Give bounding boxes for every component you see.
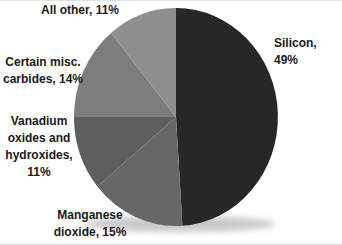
label-certain-misc-carbides: Certain misc. carbides, 14% bbox=[0, 54, 86, 88]
label-silicon: Silicon, 49% bbox=[274, 35, 342, 69]
label-all-other: All other, 11% bbox=[30, 2, 130, 19]
label-vanadium-oxides-hydroxides: Vanadium oxides and hydroxides, 11% bbox=[0, 113, 78, 181]
pie-chart-figure: All other, 11% Silicon, 49% Certain misc… bbox=[0, 0, 342, 245]
pie-slice-silicon bbox=[176, 8, 278, 226]
label-manganese-dioxide: Manganese dioxide, 15% bbox=[38, 207, 142, 241]
